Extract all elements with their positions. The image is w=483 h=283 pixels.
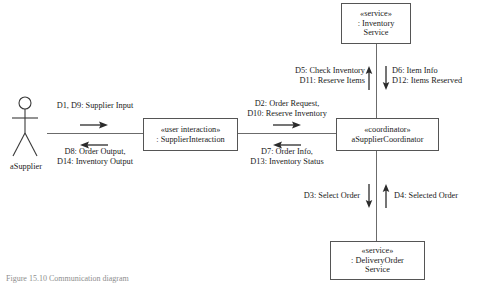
node-stereotype: «service» [360, 9, 392, 19]
message-text-line1: D3: Select Order [286, 191, 360, 201]
actor-label: aSupplier [2, 162, 50, 171]
message-text-line2: D14: Inventory Output [40, 157, 150, 167]
message-interaction-to-actor: D8: Order Output, D14: Inventory Output [40, 147, 150, 167]
message-text-line2: D11: Reserve Items [281, 76, 365, 86]
node-instance-name: : SupplierInteraction [156, 135, 224, 145]
message-text-line1: D5: Check Inventory [281, 66, 365, 76]
node-stereotype: «user interaction» [161, 125, 221, 135]
arrow-down-coordinator-to-delivery [364, 183, 374, 213]
node-stereotype: «service» [362, 246, 394, 256]
node-instance-name-line2: Service [365, 265, 390, 275]
message-text-line1: D6: Item Info [392, 66, 462, 76]
message-text-line1: D1, D9: Supplier Input [47, 101, 143, 111]
arrow-right-actor-to-interaction [79, 116, 109, 134]
node-inventory-service[interactable]: «service» : Inventory Service [341, 3, 411, 44]
message-interaction-to-coordinator: D2: Order Request, D10: Reserve Inventor… [232, 99, 342, 119]
actor-asupplier[interactable] [8, 96, 42, 158]
message-actor-to-interaction: D1, D9: Supplier Input [47, 101, 143, 111]
message-coordinator-to-interaction: D7: Order Info, D13: Inventory Status [232, 147, 342, 167]
message-text-line1: D7: Order Info, [232, 147, 342, 157]
node-instance-name: aSupplierCoordinator [352, 135, 424, 145]
node-coordinator[interactable]: «coordinator» aSupplierCoordinator [336, 118, 439, 151]
arrow-up-delivery-to-coordinator [381, 183, 391, 213]
node-instance-name-line1: : Inventory [358, 19, 395, 29]
diagram-canvas: aSupplier «user interaction» : SupplierI… [0, 0, 483, 283]
message-text-line1: D8: Order Output, [40, 147, 150, 157]
message-text-line2: D10: Reserve Inventory [232, 109, 342, 119]
message-coordinator-to-delivery: D3: Select Order [286, 191, 360, 201]
stick-figure-actor-icon [8, 96, 42, 158]
message-text-line2: D13: Inventory Status [232, 157, 342, 167]
connector-coordinator-to-inventory [376, 44, 377, 118]
message-delivery-to-coordinator: D4: Selected Order [394, 191, 458, 201]
message-coordinator-to-inventory: D5: Check Inventory D11: Reserve Items [281, 66, 365, 86]
arrow-down-inventory-to-coordinator [381, 65, 391, 95]
figure-caption: Figure 15.10 Communication diagram [6, 274, 129, 283]
node-supplier-interaction[interactable]: «user interaction» : SupplierInteraction [143, 118, 238, 151]
message-text-line1: D4: Selected Order [394, 191, 458, 201]
node-instance-name-line2: Service [364, 28, 389, 38]
message-text-line1: D2: Order Request, [232, 99, 342, 109]
arrow-up-coordinator-to-inventory [364, 65, 374, 95]
node-instance-name-line1: : DeliveryOrder [351, 256, 404, 266]
message-text-line2: D12: Items Reserved [392, 76, 462, 86]
message-inventory-to-coordinator: D6: Item Info D12: Items Reserved [392, 66, 462, 86]
node-stereotype: «coordinator» [364, 125, 411, 135]
connector-coordinator-to-delivery [376, 151, 377, 241]
node-delivery-order-service[interactable]: «service» : DeliveryOrder Service [330, 241, 425, 280]
